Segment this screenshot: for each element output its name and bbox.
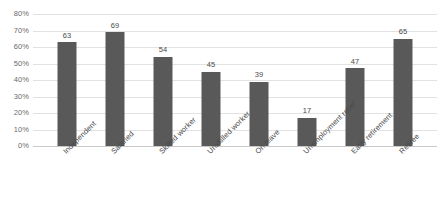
bar-slot: 69 [91,14,139,146]
y-axis-tick-label: 50% [3,60,29,68]
bar-value-label: 45 [207,61,215,69]
bar-slot: 65 [379,14,427,146]
bar-value-label: 54 [159,46,167,54]
y-axis-tick-label: 0% [3,142,29,150]
bar-value-label: 17 [303,107,311,115]
y-axis-tick-label: 20% [3,109,29,117]
bar-value-label: 63 [63,32,71,40]
bar [106,32,125,146]
bar-slot: 39 [235,14,283,146]
bar-chart: 0%10%20%30%40%50%60%70%80% 6369544539174… [0,0,448,220]
bar-value-label: 69 [111,22,119,30]
bar [202,72,221,146]
bar-value-label: 65 [399,28,407,36]
axis-baseline [33,146,437,147]
bar [394,39,413,146]
y-axis-tick-label: 80% [3,10,29,18]
bar-value-label: 39 [255,71,263,79]
y-axis-tick-label: 40% [3,76,29,84]
bar [154,57,173,146]
y-axis-tick-label: 10% [3,126,29,134]
y-axis-tick-label: 60% [3,43,29,51]
bar [58,42,77,146]
y-axis-tick-label: 30% [3,93,29,101]
y-axis-tick-label: 70% [3,27,29,35]
bar-value-label: 47 [351,58,359,66]
